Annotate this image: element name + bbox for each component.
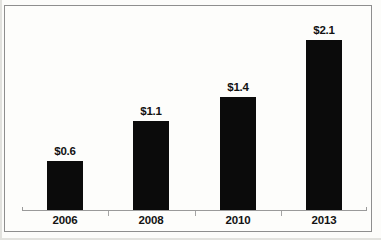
plot-area: $0.6 $1.1 $1.4 $2.1: [22, 16, 367, 210]
category-axis-labels: 2006 2008 2010 2013: [22, 214, 367, 232]
axis-end-tick-right: [366, 207, 367, 211]
chart-page: $0.6 $1.1 $1.4 $2.1 2006 2008: [0, 0, 381, 240]
bar-group-2008: $1.1: [108, 16, 194, 210]
bar-group-2010: $1.4: [195, 16, 281, 210]
bar-2006: [47, 161, 83, 210]
category-label-2008: 2008: [108, 214, 194, 226]
category-label-2010: 2010: [195, 214, 281, 226]
bar-value-label: $1.1: [140, 105, 162, 117]
chart-frame: $0.6 $1.1 $1.4 $2.1 2006 2008: [4, 5, 372, 232]
category-label-2013: 2013: [281, 214, 367, 226]
bar-group-2006: $0.6: [22, 16, 108, 210]
bar-2013: [306, 40, 342, 210]
bar-value-label: $1.4: [227, 81, 249, 93]
bar-value-label: $2.1: [313, 24, 335, 36]
bar-value-label: $0.6: [54, 145, 76, 157]
bar-2008: [133, 121, 169, 210]
scan-edge-left: [0, 0, 2, 240]
category-label-2006: 2006: [22, 214, 108, 226]
axis-end-tick-left: [22, 207, 23, 211]
bar-2010: [220, 97, 256, 210]
bar-group-2013: $2.1: [281, 16, 367, 210]
